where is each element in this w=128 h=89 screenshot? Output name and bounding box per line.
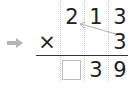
answer-box[interactable] <box>62 60 81 80</box>
result-tens: 3 <box>85 58 107 82</box>
result-rule <box>36 55 128 56</box>
result-ones: 9 <box>109 58 128 82</box>
